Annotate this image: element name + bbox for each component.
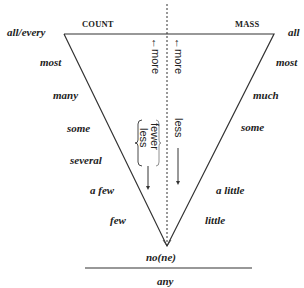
count-label-all-every: all/every <box>7 27 45 38</box>
count-label-most: most <box>40 57 61 68</box>
mass-label-some: some <box>241 122 264 133</box>
count-label-few: few <box>110 215 126 226</box>
mass-label-most: most <box>276 57 297 68</box>
quantifier-triangle-diagram: COUNT MASS all/every most many some seve… <box>0 0 304 288</box>
mass-less-label: less <box>173 118 184 138</box>
triangle-outline <box>64 34 274 246</box>
count-header: COUNT <box>82 20 114 29</box>
count-label-several: several <box>70 155 102 166</box>
count-label-a-few: a few <box>90 185 114 196</box>
count-fewer-label: fewer <box>149 123 160 150</box>
count-label-some: some <box>67 123 90 134</box>
below-line-label-any: any <box>157 276 174 287</box>
mass-label-much: much <box>253 90 279 101</box>
count-more-label: ←more <box>150 38 161 74</box>
mass-label-little: little <box>205 215 225 226</box>
count-less-label: less <box>138 128 149 148</box>
mass-label-a-little: a little <box>216 185 244 196</box>
mass-label-all: all <box>288 27 300 38</box>
apex-label-none: no(ne) <box>146 252 176 263</box>
mass-header: MASS <box>235 20 259 29</box>
mass-more-label: ←more <box>173 38 184 74</box>
count-label-many: many <box>53 90 78 101</box>
